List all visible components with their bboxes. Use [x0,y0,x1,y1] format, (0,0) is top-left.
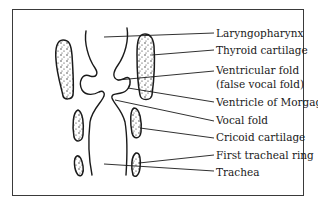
left-airway-wall [80,31,104,175]
label-first-tracheal-ring: First tracheal ring [216,149,314,161]
left-tracheal-ring [74,156,83,176]
label-ventricular-fold: Ventricular fold [216,64,299,76]
label-false-vocal-fold: (false vocal fold) [216,78,304,90]
right-tracheal-ring [132,153,141,176]
label-laryngopharynx: Laryngopharynx [216,27,303,39]
leader-lines [104,33,214,171]
label-ventricle-of-morgagni: Ventricle of Morgagni [216,96,318,108]
label-cricoid-cartilage: Cricoid cartilage [216,131,305,143]
label-vocal-fold: Vocal fold [216,114,268,126]
label-trachea: Trachea [216,166,259,178]
left-thyroid-cartilage [56,40,74,99]
label-thyroid-cartilage: Thyroid cartilage [216,44,308,56]
right-cricoid-cartilage [131,108,142,138]
left-cricoid-cartilage [73,110,83,141]
